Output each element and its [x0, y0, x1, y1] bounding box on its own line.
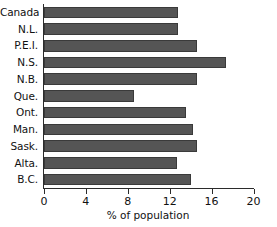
- x-axis-tick-label: 8: [124, 195, 131, 208]
- x-axis-tick: [170, 189, 171, 194]
- x-axis-tick: [254, 189, 255, 194]
- bar: [44, 140, 197, 152]
- category-label: N.B.: [0, 71, 40, 88]
- category-label: N.S.: [0, 54, 40, 71]
- x-axis-tick: [128, 189, 129, 194]
- category-label: N.L.: [0, 21, 40, 38]
- bar-row: [44, 4, 254, 21]
- bar-row: [44, 121, 254, 138]
- category-axis-labels: CanadaN.L.P.E.I.N.S.N.B.Que.Ont.Man.Sask…: [0, 4, 40, 188]
- category-label: B.C.: [0, 171, 40, 188]
- x-axis-tick-label: 12: [163, 195, 177, 208]
- bar: [44, 73, 197, 85]
- bar-row: [44, 54, 254, 71]
- x-axis-title: % of population: [43, 209, 254, 221]
- x-axis: 048121620: [43, 188, 254, 190]
- bar: [44, 40, 197, 52]
- bar: [44, 90, 134, 102]
- bar-row: [44, 104, 254, 121]
- x-axis-tick: [212, 189, 213, 194]
- bar: [44, 7, 178, 19]
- bar-row: [44, 37, 254, 54]
- bar-row: [44, 71, 254, 88]
- bar-series: [44, 4, 254, 188]
- category-label: Que.: [0, 88, 40, 105]
- x-axis-tick-label: 20: [247, 195, 261, 208]
- bar: [44, 57, 226, 69]
- bar-row: [44, 155, 254, 172]
- category-label: Alta.: [0, 155, 40, 172]
- category-label: Ont.: [0, 104, 40, 121]
- category-label: Canada: [0, 4, 40, 21]
- x-axis-tick-label: 0: [40, 195, 47, 208]
- category-label: P.E.I.: [0, 37, 40, 54]
- bar: [44, 157, 177, 169]
- bar: [44, 107, 187, 119]
- category-label: Man.: [0, 121, 40, 138]
- x-axis-tick-label: 4: [82, 195, 89, 208]
- bar-row: [44, 138, 254, 155]
- bar-row: [44, 21, 254, 38]
- plot-area: [43, 4, 254, 188]
- bar-row: [44, 171, 254, 188]
- bar-chart: CanadaN.L.P.E.I.N.S.N.B.Que.Ont.Man.Sask…: [0, 0, 277, 227]
- x-axis-line: [43, 188, 254, 189]
- bar: [44, 174, 191, 186]
- bar: [44, 23, 178, 35]
- bar-row: [44, 88, 254, 105]
- x-axis-tick: [44, 189, 45, 194]
- x-axis-tick-label: 16: [205, 195, 219, 208]
- bar: [44, 124, 193, 136]
- category-label: Sask.: [0, 138, 40, 155]
- x-axis-tick: [86, 189, 87, 194]
